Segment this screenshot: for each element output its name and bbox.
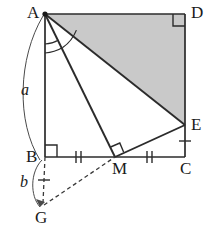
vertex-label-G: G [35, 209, 47, 226]
vertex-label-D: D [191, 4, 203, 21]
figure-canvas [0, 0, 215, 230]
geometry-figure: A D E B C M G a b [0, 0, 215, 230]
vertex-label-E: E [191, 116, 201, 133]
vertex-label-M: M [112, 160, 127, 177]
angle-arc-BAM [45, 40, 59, 44]
vertex-label-A: A [27, 4, 39, 21]
length-label-b: b [20, 174, 28, 190]
angle-arc-MAE [45, 48, 63, 53]
length-label-a: a [21, 82, 29, 98]
right-angle-marker-B [45, 145, 57, 157]
vertex-label-B: B [26, 148, 37, 165]
segment-GM-dashed [44, 157, 115, 205]
vertex-dot-A [42, 11, 47, 16]
segment-ME [115, 125, 185, 157]
vertex-label-C: C [180, 160, 191, 177]
